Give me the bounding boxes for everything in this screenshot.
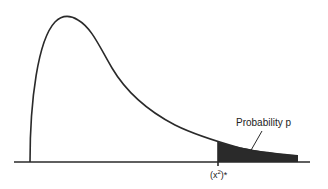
chi-square-diagram: Probability p (x2)* xyxy=(0,0,328,189)
density-curve xyxy=(30,16,298,162)
critical-value-label: (x2)* xyxy=(210,169,228,180)
probability-label: Probability p xyxy=(236,117,291,128)
probability-leader-line xyxy=(250,131,262,152)
